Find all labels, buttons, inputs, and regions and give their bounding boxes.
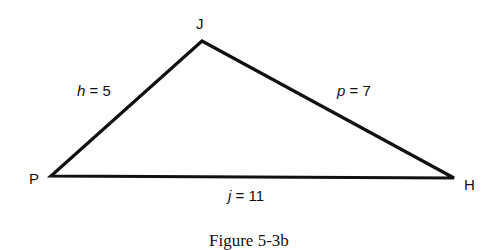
triangle-PJH [51, 41, 454, 178]
side-p-value: = 7 [345, 82, 370, 99]
side-h-variable: h [77, 82, 85, 99]
side-j-value: = 11 [231, 187, 264, 204]
vertex-label-J: J [196, 15, 204, 32]
side-label-p: p = 7 [336, 82, 371, 99]
triangle-figure: J P H h = 5 p = 7 j = 11 Figure 5-3b [0, 0, 501, 250]
side-label-h: h = 5 [77, 82, 111, 99]
side-h-value: = 5 [85, 82, 110, 99]
side-p-variable: p [336, 82, 345, 99]
vertex-label-H: H [464, 176, 475, 193]
figure-caption: Figure 5-3b [209, 231, 289, 250]
side-label-j: j = 11 [226, 187, 264, 204]
vertex-label-P: P [29, 170, 39, 187]
